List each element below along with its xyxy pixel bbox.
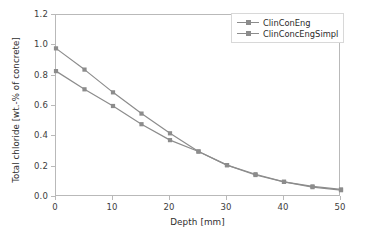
data-point-marker xyxy=(168,138,172,142)
x-tick-mark xyxy=(283,196,284,200)
x-tick-label: 40 xyxy=(278,202,289,212)
data-point-marker xyxy=(282,180,286,184)
y-tick-label: 0.6 xyxy=(34,100,48,110)
x-axis-ticks: Depth [mm] 01020304050 xyxy=(0,196,365,237)
x-tick-label: 30 xyxy=(221,202,232,212)
data-point-marker xyxy=(310,185,314,189)
legend-label: ClinConEng xyxy=(260,18,311,28)
data-point-marker xyxy=(139,122,143,126)
data-point-marker xyxy=(339,188,343,192)
legend-item-1[interactable]: ClinConEng xyxy=(236,17,338,28)
legend-swatch-icon xyxy=(236,17,260,28)
data-point-marker xyxy=(82,68,86,72)
y-tick-label: 0.4 xyxy=(34,130,48,140)
data-point-marker xyxy=(111,90,115,94)
series-ClinConcEngSimpl xyxy=(54,69,343,192)
y-tick-label: 1.2 xyxy=(34,9,48,19)
x-axis-label: Depth [mm] xyxy=(55,217,340,227)
series-ClinConEng xyxy=(54,46,343,191)
data-point-marker xyxy=(253,173,257,177)
y-tick-label: 1.0 xyxy=(34,39,48,49)
x-tick-label: 10 xyxy=(107,202,118,212)
data-point-marker xyxy=(225,163,229,167)
data-point-marker xyxy=(168,131,172,135)
legend-item-2[interactable]: ClinConcEngSimpl xyxy=(236,28,338,39)
x-tick-label: 20 xyxy=(164,202,175,212)
x-tick-mark xyxy=(169,196,170,200)
data-point-marker xyxy=(82,87,86,91)
chart-legend: ClinConEngClinConcEngSimpl xyxy=(231,13,344,43)
y-axis-label: Total chloride [wt.-% of concrete] xyxy=(11,20,21,200)
x-tick-label: 0 xyxy=(52,202,57,212)
data-point-marker xyxy=(139,111,143,115)
data-point-marker xyxy=(111,104,115,108)
x-tick-mark xyxy=(55,196,56,200)
x-tick-label: 50 xyxy=(335,202,346,212)
legend-label: ClinConcEngSimpl xyxy=(260,29,338,39)
legend-swatch-icon xyxy=(236,28,260,39)
y-tick-label: 0.8 xyxy=(34,70,48,80)
x-tick-mark xyxy=(112,196,113,200)
data-point-marker xyxy=(54,46,58,50)
y-tick-label: 0.2 xyxy=(34,161,48,171)
chart-figure: 0.00.20.40.60.81.01.2 Total chloride [wt… xyxy=(0,0,365,237)
data-point-marker xyxy=(196,149,200,153)
x-tick-mark xyxy=(226,196,227,200)
data-point-marker xyxy=(54,69,58,73)
series-line xyxy=(56,48,341,189)
x-tick-mark xyxy=(340,196,341,200)
series-line xyxy=(56,71,341,190)
